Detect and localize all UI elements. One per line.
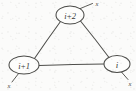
- node-bottom-left-label: i+1: [18, 61, 30, 71]
- stub-top-label: x: [95, 0, 99, 7]
- figure-canvas: i+2 i+1 i x x x: [0, 0, 136, 91]
- edge-bottom-left-to-bottom-right: [39, 64, 104, 66]
- edge-top-to-bottom-left: [35, 22, 61, 59]
- edge-top-to-bottom-right: [81, 21, 110, 58]
- stub-line-bottom-left: [12, 73, 19, 82]
- stub-bottom-right-label: x: [128, 80, 132, 87]
- stub-line-bottom-right: [121, 72, 128, 80]
- stub-bottom-left-label: x: [7, 82, 11, 89]
- node-top-label: i+2: [64, 11, 77, 21]
- edge-group: [35, 21, 110, 66]
- diagram-svg: i+2 i+1 i x x x: [0, 0, 136, 91]
